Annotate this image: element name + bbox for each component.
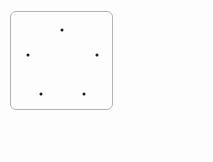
dot-bottom-right — [83, 93, 86, 96]
dot-bottom-left — [40, 93, 43, 96]
dot-middle-left — [27, 54, 30, 57]
dot-region — [10, 11, 113, 110]
answer-blank-row: ( )개 — [0, 116, 213, 146]
worksheet-canvas: ( )개 — [0, 0, 213, 162]
dot-top — [61, 29, 64, 32]
dot-middle-right — [96, 54, 99, 57]
